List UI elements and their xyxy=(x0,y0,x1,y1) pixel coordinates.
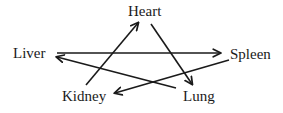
organ-relationship-diagram: Heart Liver Spleen Kidney Lung xyxy=(0,0,283,113)
node-lung: Lung xyxy=(183,89,215,104)
node-liver: Liver xyxy=(13,46,45,61)
arrow-heart-to-lung xyxy=(151,24,192,84)
node-spleen: Spleen xyxy=(230,47,271,62)
node-kidney: Kidney xyxy=(62,89,106,104)
node-heart: Heart xyxy=(128,4,161,19)
arrow-lung-to-liver xyxy=(57,57,176,88)
